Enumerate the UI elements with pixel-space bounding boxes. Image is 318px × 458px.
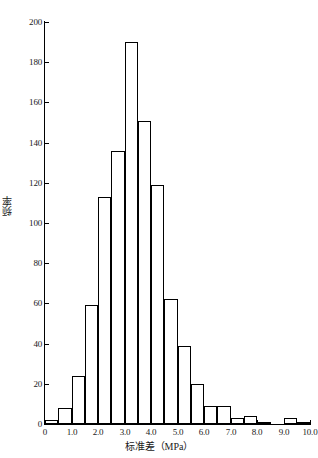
x-axis-tick-label: 9.0 — [279, 428, 290, 437]
y-axis-tick-label: 120 — [29, 179, 42, 188]
histogram-bar — [284, 418, 297, 424]
x-axis-tick-label: 6.0 — [199, 428, 210, 437]
histogram-bar — [231, 418, 244, 424]
y-axis-tick-label: 60 — [33, 299, 42, 308]
x-axis-tick — [310, 420, 311, 425]
y-axis-tick-label: 0 — [38, 420, 42, 429]
y-axis-tick-label: 140 — [29, 139, 42, 148]
x-axis-tick-label: 5.0 — [173, 428, 184, 437]
histogram-bar — [297, 422, 310, 424]
x-axis-tick-label: 2.0 — [93, 428, 104, 437]
y-axis-tick-label: 80 — [33, 259, 42, 268]
y-axis-title: 频率 — [2, 196, 16, 216]
histogram-chart: 020406080100120140160180200 01.02.03.04.… — [0, 0, 318, 458]
y-axis-tick-label: 180 — [29, 58, 42, 67]
histogram-bar — [164, 299, 177, 424]
y-axis-tick-label: 100 — [29, 219, 42, 228]
x-axis-tick-label: 3.0 — [120, 428, 131, 437]
histogram-bar — [204, 406, 217, 424]
x-axis-title: 标准差（MPa） — [0, 441, 318, 452]
histogram-bar — [125, 42, 138, 424]
x-axis-tick-label: 8.0 — [252, 428, 263, 437]
x-axis-tick-label: 7.0 — [226, 428, 237, 437]
plot-area — [45, 22, 310, 424]
x-axis-tick-label: 10.0 — [303, 428, 318, 437]
histogram-bar — [191, 384, 204, 424]
histogram-bar — [257, 422, 270, 424]
histogram-bar — [72, 376, 85, 424]
histogram-bar — [178, 346, 191, 424]
x-axis-tick-label: 0 — [43, 428, 47, 437]
histogram-bar — [138, 121, 151, 425]
y-axis-tick-label: 160 — [29, 98, 42, 107]
histogram-bar — [151, 185, 164, 424]
y-axis-tick-label: 20 — [33, 380, 42, 389]
histogram-bar — [111, 151, 124, 424]
x-axis-tick-label: 4.0 — [146, 428, 157, 437]
histogram-bar — [98, 197, 111, 424]
x-axis-tick-label: 1.0 — [67, 428, 78, 437]
histogram-bar — [85, 305, 98, 424]
histogram-bar — [58, 408, 71, 424]
histogram-bar — [244, 416, 257, 424]
y-axis-tick-label: 40 — [33, 340, 42, 349]
histogram-bar — [217, 406, 230, 424]
y-axis-tick-label: 200 — [29, 18, 42, 27]
histogram-bar — [45, 420, 58, 424]
